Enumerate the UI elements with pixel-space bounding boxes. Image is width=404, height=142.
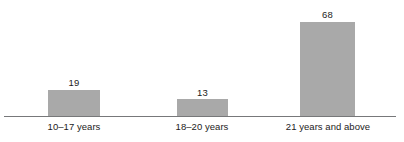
- category-label-0: 10–17 years: [24, 121, 124, 133]
- bar-value-2: 68: [300, 9, 355, 20]
- bar-value-1: 13: [177, 87, 228, 98]
- bar-value-0: 19: [48, 77, 100, 88]
- category-label-1: 18–20 years: [152, 121, 252, 133]
- bar-0: [48, 90, 100, 116]
- x-axis-baseline: [4, 116, 396, 117]
- bar-2: [300, 22, 355, 116]
- category-label-2: 21 years and above: [278, 121, 378, 133]
- bar-1: [177, 99, 228, 116]
- bar-chart-figure: 19 10–17 years 13 18–20 years 68 21 year…: [0, 0, 404, 142]
